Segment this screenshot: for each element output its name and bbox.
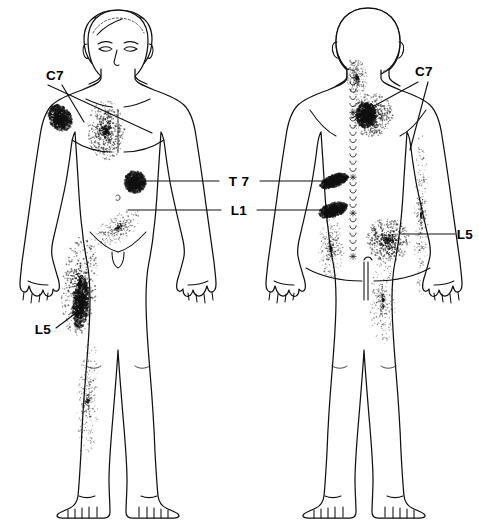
label-t7: T 7 (229, 174, 249, 189)
label-l5-anterior: L5 (35, 322, 52, 337)
label-l5-posterior: L5 (457, 227, 474, 242)
label-l1: L1 (231, 203, 248, 218)
diagram-canvas: C7T 7L1L5C7L5 (0, 0, 479, 523)
vertebra-marked (349, 253, 356, 259)
label-c7-posterior: C7 (415, 64, 433, 79)
vertebra-marked (349, 174, 356, 180)
vertebra-marked (349, 210, 356, 216)
referred-pain-diagram: C7T 7L1L5C7L5 (0, 0, 479, 523)
label-c7-anterior: C7 (46, 68, 64, 83)
